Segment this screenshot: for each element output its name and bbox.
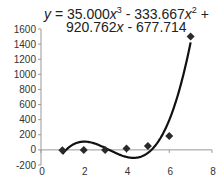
y-tick-label: 800: [19, 84, 36, 95]
data-point-marker: [165, 132, 173, 140]
y-tick-label: 400: [19, 114, 36, 125]
y-tick-label: 600: [19, 99, 36, 110]
y-tick-label: 1000: [14, 69, 37, 80]
x-tick-label: 2: [82, 166, 88, 177]
data-point-marker: [187, 33, 195, 41]
data-point-marker: [144, 142, 152, 150]
y-tick-label: 0: [30, 144, 36, 155]
x-tick-label: 4: [125, 166, 131, 177]
y-tick-label: 1600: [14, 24, 37, 35]
x-tick-label: 0: [39, 166, 45, 177]
y-tick-label: -200: [16, 160, 36, 171]
y-tick-label: 1200: [14, 54, 37, 65]
y-tick-label: 1400: [14, 39, 37, 50]
data-point-marker: [80, 146, 88, 154]
y-tick-label: 200: [19, 129, 36, 140]
x-tick-label: 6: [167, 166, 173, 177]
data-point-marker: [123, 144, 131, 152]
x-tick-label: 8: [210, 166, 216, 177]
data-point-marker: [58, 146, 66, 154]
equation-line-2: 920.762x - 677.714: [66, 19, 187, 36]
trendline-curve: [62, 42, 190, 157]
